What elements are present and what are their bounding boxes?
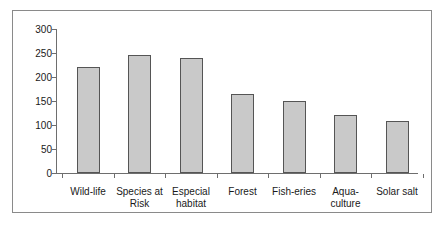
y-axis-line <box>56 29 57 174</box>
x-axis-category-label: Wild-life <box>62 186 114 198</box>
y-axis-tick-label: 200 <box>35 72 52 83</box>
x-axis-category-label: Species at Risk <box>114 186 166 209</box>
y-axis-tick-label: 300 <box>35 24 52 35</box>
bar <box>386 121 409 173</box>
y-axis-tick-label: 0 <box>46 168 52 179</box>
y-axis-tick <box>52 101 56 102</box>
y-axis-tick <box>52 53 56 54</box>
x-axis-category-label: Forest <box>217 186 269 198</box>
x-axis-category-label: Solar salt <box>371 186 423 198</box>
bar <box>231 94 254 173</box>
bar <box>180 58 203 173</box>
y-axis-tick <box>52 149 56 150</box>
x-axis-tick <box>423 174 424 178</box>
x-axis-category-label: Fish-eries <box>268 186 320 198</box>
y-axis-tick <box>52 125 56 126</box>
x-axis-tick <box>62 174 63 178</box>
x-axis-tick <box>268 174 269 178</box>
x-axis-tick <box>320 174 321 178</box>
plot-area: 050100150200250300 Wild-lifeSpecies at R… <box>56 29 421 183</box>
x-axis-tick <box>165 174 166 178</box>
bar <box>334 115 357 173</box>
y-axis-tick <box>52 173 56 174</box>
y-axis-tick-label: 250 <box>35 48 52 59</box>
bar <box>128 55 151 173</box>
y-axis-tick <box>52 77 56 78</box>
x-axis-line <box>56 173 418 174</box>
x-axis-tick <box>217 174 218 178</box>
y-axis-tick-label: 150 <box>35 96 52 107</box>
bar <box>77 67 100 173</box>
y-axis-tick <box>52 29 56 30</box>
x-axis-category-label: Especial habitat <box>165 186 217 209</box>
chart-border-frame: 050100150200250300 Wild-lifeSpecies at R… <box>12 10 432 213</box>
bar <box>283 101 306 173</box>
y-axis-tick-label: 50 <box>41 144 52 155</box>
x-axis-category-label: Aqua- culture <box>320 186 372 209</box>
x-axis-tick <box>371 174 372 178</box>
x-axis-tick <box>114 174 115 178</box>
y-axis-tick-label: 100 <box>35 120 52 131</box>
